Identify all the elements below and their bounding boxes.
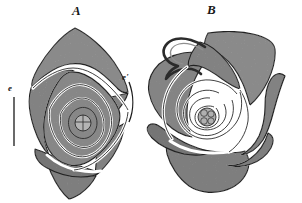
figure-b-caption: B — [207, 3, 216, 16]
reference-label-e-prime: e' — [122, 73, 129, 82]
engraving-plate: A B e e' — [0, 0, 302, 203]
figure-b-growing-point — [198, 108, 216, 126]
figure-a-growing-point — [75, 115, 91, 131]
plate-illustration — [0, 0, 302, 203]
reference-label-e: e — [8, 84, 12, 93]
figure-a-caption: A — [72, 4, 81, 17]
